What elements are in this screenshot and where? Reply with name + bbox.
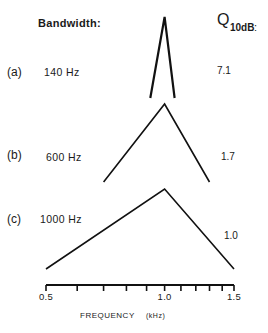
row-c-bandwidth: 1000 Hz xyxy=(40,213,82,225)
row-b-letter: (b) xyxy=(7,148,22,162)
row-b-q10db: 1.7 xyxy=(221,151,235,162)
x-axis-tick-labels: 0.51.01.5 xyxy=(39,291,241,302)
tuning-curves-figure: Bandwidth: Q 10dB : (a) 140 Hz 7.1 (b) 6… xyxy=(0,0,268,333)
x-axis-title: FREQUENCY (kHz) xyxy=(80,311,165,320)
q-symbol: Q xyxy=(217,11,229,28)
x-tick-label: 1.5 xyxy=(227,291,241,302)
row-a-q10db: 7.1 xyxy=(217,65,231,76)
row-c-q10db: 1.0 xyxy=(224,230,238,241)
x-axis-unit: (kHz) xyxy=(146,312,165,320)
x-tick-label: 1.0 xyxy=(158,291,172,302)
row-b-bandwidth: 600 Hz xyxy=(46,151,82,163)
tuning-curve-c xyxy=(46,189,234,269)
row-c-letter: (c) xyxy=(7,212,21,226)
q-colon: : xyxy=(254,21,257,33)
x-axis-label: FREQUENCY xyxy=(80,311,135,320)
row-a-bandwidth: 140 Hz xyxy=(44,66,80,78)
bandwidth-header: Bandwidth: xyxy=(38,17,101,29)
q10db-header: Q 10dB : xyxy=(217,11,257,33)
tuning-curve-b xyxy=(104,104,210,182)
row-a-letter: (a) xyxy=(7,65,22,79)
x-tick-label: 0.5 xyxy=(39,291,53,302)
frequency-axis: 0.51.01.5 xyxy=(39,285,241,302)
tuning-curve-a xyxy=(150,17,174,98)
q-subscript: 10dB xyxy=(230,22,254,33)
row-a: (a) 140 Hz 7.1 xyxy=(7,65,231,79)
